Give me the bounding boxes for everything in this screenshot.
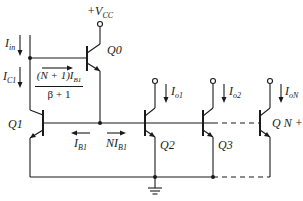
qn1-label: Q N + 1 (272, 117, 303, 129)
ib1-label: IB1 (74, 137, 87, 152)
ion-label: IoN (285, 85, 298, 100)
fraction-numerator: (N + 1)IB1 (35, 70, 83, 84)
ic1-label: IC1 (3, 70, 16, 85)
nib1-label: NIB1 (106, 137, 127, 152)
io1-label: Io1 (171, 85, 183, 100)
vcc-label: +VCC (87, 5, 113, 20)
iin-label: Iin (5, 37, 15, 52)
circuit-wires (0, 0, 303, 201)
q1-label: Q1 (8, 118, 23, 130)
q2-label: Q2 (160, 139, 175, 151)
q0-label: Q0 (107, 44, 122, 56)
fraction-denominator: β + 1 (35, 89, 83, 100)
q3-label: Q3 (218, 139, 233, 151)
helper-current-fraction: (N + 1)IB1 β + 1 (35, 70, 83, 100)
circuit-diagram: +VCC Iin IC1 (N + 1)IB1 β + 1 Q0 Q1 Q2 Q… (0, 0, 303, 201)
io2-label: Io2 (229, 85, 241, 100)
fraction-bar (35, 86, 83, 87)
